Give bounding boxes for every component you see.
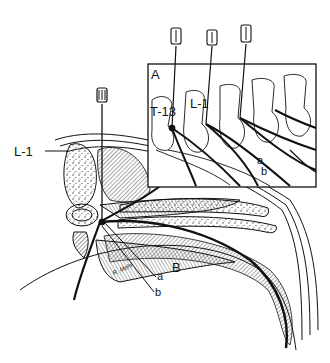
nerve-block-illustration bbox=[0, 0, 330, 363]
section-nerve-label-b: b bbox=[155, 287, 161, 298]
vertebra-label-l1: L-1 bbox=[190, 97, 209, 110]
vertebra-label-t13: T-13 bbox=[150, 105, 176, 118]
section-nerve-label-a: a bbox=[157, 271, 163, 282]
panel-label-b: B bbox=[172, 261, 181, 274]
level-label-l1: L-1 bbox=[14, 145, 33, 158]
inset-nerve-label-b: b bbox=[261, 166, 267, 177]
panel-label-a: A bbox=[151, 68, 160, 81]
